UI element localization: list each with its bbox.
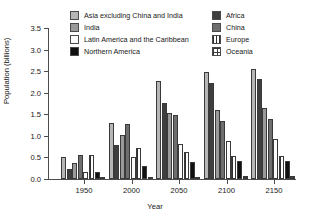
bar-africa-2150[interactable] xyxy=(257,79,262,179)
x-tick-label: 2150 xyxy=(266,186,283,195)
bar-oceania-2000[interactable] xyxy=(148,177,153,179)
africa-swatch-icon xyxy=(212,11,221,20)
legend-item-africa[interactable]: Africa xyxy=(212,9,308,21)
bar-asia-2050[interactable] xyxy=(156,81,161,179)
bar-northern-2100[interactable] xyxy=(237,161,242,179)
bars-plot-area xyxy=(49,28,296,179)
bar-africa-2100[interactable] xyxy=(209,83,214,179)
x-tick-mark xyxy=(132,180,133,184)
bar-latin-2050[interactable] xyxy=(178,144,183,179)
bar-group-1950 xyxy=(61,28,107,179)
bar-europe-2000[interactable] xyxy=(136,148,141,179)
bar-india-2100[interactable] xyxy=(215,110,220,179)
y-tick-label: 1.5 xyxy=(30,110,41,119)
bar-india-1950[interactable] xyxy=(72,163,77,179)
x-tick-label: 2050 xyxy=(171,186,188,195)
population-bar-chart-figure: Asia excluding China and IndiaIndiaLatin… xyxy=(0,0,310,221)
asia-swatch-icon xyxy=(70,11,79,20)
legend-item-label: Africa xyxy=(226,11,244,20)
bar-europe-2050[interactable] xyxy=(184,152,189,179)
bar-africa-2050[interactable] xyxy=(162,103,167,179)
bar-group-2050 xyxy=(156,28,202,179)
x-tick-mark xyxy=(227,180,228,184)
bar-oceania-2150[interactable] xyxy=(290,176,295,179)
x-tick-label: 2000 xyxy=(123,186,140,195)
bar-asia-2000[interactable] xyxy=(109,123,114,179)
y-tick-label: 2.0 xyxy=(30,88,41,97)
bar-india-2050[interactable] xyxy=(167,113,172,179)
bar-group-2000 xyxy=(109,28,155,179)
bar-oceania-2050[interactable] xyxy=(195,177,200,179)
bar-china-2050[interactable] xyxy=(173,115,178,179)
legend-item-asia[interactable]: Asia excluding China and India xyxy=(70,9,212,21)
y-tick-label: 3.5 xyxy=(30,24,41,33)
bar-europe-2150[interactable] xyxy=(279,156,284,179)
bar-china-1950[interactable] xyxy=(78,155,83,179)
bar-group-2150 xyxy=(251,28,297,179)
y-axis-label: Population (billions) xyxy=(2,38,11,104)
y-tick-mark xyxy=(44,28,48,29)
bar-europe-1950[interactable] xyxy=(89,155,94,179)
y-tick-label: 2.5 xyxy=(30,67,41,76)
y-tick-label: 1.0 xyxy=(30,131,41,140)
y-tick-mark xyxy=(44,50,48,51)
x-tick-mark xyxy=(84,180,85,184)
bar-northern-2050[interactable] xyxy=(190,162,195,179)
bar-india-2150[interactable] xyxy=(262,108,267,179)
y-tick-mark xyxy=(44,71,48,72)
bar-latin-2100[interactable] xyxy=(226,141,231,179)
bar-india-2000[interactable] xyxy=(120,135,125,179)
bar-asia-2100[interactable] xyxy=(204,72,209,179)
bar-china-2100[interactable] xyxy=(220,121,225,179)
x-tick-mark xyxy=(274,180,275,184)
y-tick-label: 0.5 xyxy=(30,153,41,162)
bar-europe-2100[interactable] xyxy=(231,156,236,179)
plot-frame: 0.00.51.01.52.02.53.03.5 195020002050210… xyxy=(48,28,296,180)
bar-africa-1950[interactable] xyxy=(67,169,72,179)
x-axis-label: Year xyxy=(0,202,310,211)
bar-latin-2000[interactable] xyxy=(131,157,136,179)
bar-asia-1950[interactable] xyxy=(61,157,66,179)
bar-northern-1950[interactable] xyxy=(95,172,100,179)
y-tick-label: 0.0 xyxy=(30,175,41,184)
bar-group-2100 xyxy=(204,28,250,179)
y-tick-mark xyxy=(44,93,48,94)
y-tick-mark xyxy=(44,179,48,180)
x-axis-line xyxy=(48,179,296,180)
bar-northern-2150[interactable] xyxy=(285,161,290,179)
x-tick-label: 1950 xyxy=(76,186,93,195)
y-tick-label: 3.0 xyxy=(30,45,41,54)
bar-latin-2150[interactable] xyxy=(273,139,278,179)
bar-northern-2000[interactable] xyxy=(142,166,147,179)
bar-asia-2150[interactable] xyxy=(251,69,256,179)
bar-oceania-1950[interactable] xyxy=(100,177,105,179)
legend-item-label: Asia excluding China and India xyxy=(84,11,183,20)
bar-china-2150[interactable] xyxy=(268,119,273,179)
bar-africa-2000[interactable] xyxy=(114,145,119,180)
bar-china-2000[interactable] xyxy=(125,124,130,179)
y-tick-mark xyxy=(44,136,48,137)
bar-latin-1950[interactable] xyxy=(83,172,88,179)
y-tick-mark xyxy=(44,114,48,115)
x-tick-mark xyxy=(179,180,180,184)
bar-oceania-2100[interactable] xyxy=(243,176,248,179)
x-tick-label: 2100 xyxy=(218,186,235,195)
y-tick-mark xyxy=(44,157,48,158)
